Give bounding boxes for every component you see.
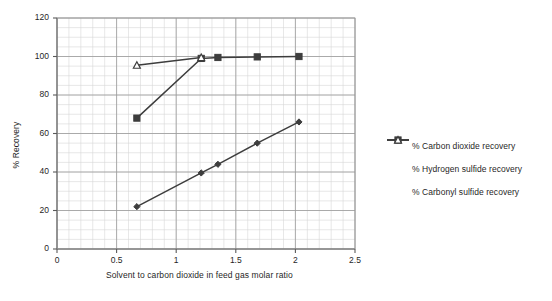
y-axis-tick: 80 bbox=[19, 89, 49, 99]
legend-item: % Hydrogen sulfide recovery bbox=[386, 157, 546, 180]
legend-label: % Carbon dioxide recovery bbox=[412, 141, 515, 151]
y-axis-tick: 60 bbox=[19, 128, 49, 138]
chart-legend: % Carbon dioxide recovery% Hydrogen sulf… bbox=[386, 134, 546, 203]
x-axis-title: Solvent to carbon dioxide in feed gas mo… bbox=[106, 270, 293, 280]
y-axis-tick: 40 bbox=[19, 166, 49, 176]
y-axis-tick: 20 bbox=[19, 205, 49, 215]
y-axis-tick: 100 bbox=[19, 51, 49, 61]
x-axis-tick: 0 bbox=[42, 255, 72, 265]
legend-label: % Carbonyl sulfide recovery bbox=[412, 187, 519, 197]
x-axis-tick: 2.5 bbox=[340, 255, 370, 265]
chart-container: Solvent to carbon dioxide in feed gas mo… bbox=[0, 0, 552, 301]
x-axis-tick: 0.5 bbox=[102, 255, 132, 265]
legend-label: % Hydrogen sulfide recovery bbox=[412, 164, 522, 174]
x-axis-tick: 1.5 bbox=[221, 255, 251, 265]
square-marker-icon bbox=[386, 163, 410, 175]
y-axis-tick: 120 bbox=[19, 12, 49, 22]
y-axis-tick: 0 bbox=[19, 243, 49, 253]
x-axis-tick: 2 bbox=[280, 255, 310, 265]
legend-item: % Carbonyl sulfide recovery bbox=[386, 180, 546, 203]
legend-item: % Carbon dioxide recovery bbox=[386, 134, 546, 157]
x-axis-tick: 1 bbox=[161, 255, 191, 265]
triangle-marker-icon bbox=[386, 186, 410, 198]
